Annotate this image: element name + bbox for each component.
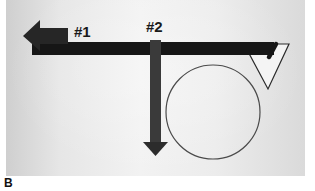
force-diagram: #1 #2	[0, 0, 315, 191]
arrow-2-head	[143, 142, 168, 156]
arrow-1-label: #1	[74, 23, 91, 40]
arrow-2-label: #2	[146, 18, 163, 35]
arrow-2-shaft	[150, 40, 161, 142]
panel-label: B	[4, 176, 13, 190]
circle-shape	[166, 65, 260, 159]
